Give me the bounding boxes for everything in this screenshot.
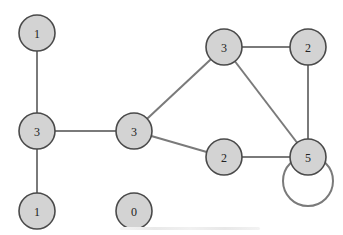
node-label: 5 <box>305 151 311 165</box>
graph-node: 1 <box>19 15 55 51</box>
graph-node: 2 <box>290 29 326 65</box>
node-label: 1 <box>34 205 40 219</box>
node-label: 3 <box>131 125 137 139</box>
node-label: 3 <box>221 41 227 55</box>
edges-layer <box>37 33 308 211</box>
node-label: 1 <box>34 27 40 41</box>
graph-node: 0 <box>116 193 152 229</box>
node-label: 0 <box>131 205 137 219</box>
graph-node: 1 <box>19 193 55 229</box>
graph-diagram: 131303225 <box>0 0 343 235</box>
graph-node: 2 <box>206 139 242 175</box>
graph-node: 3 <box>206 29 242 65</box>
figure-caption <box>120 225 260 231</box>
graph-node: 3 <box>19 113 55 149</box>
node-label: 2 <box>221 151 227 165</box>
caption-text-illegible <box>120 227 260 230</box>
graph-node: 3 <box>116 113 152 149</box>
node-label: 2 <box>305 41 311 55</box>
graph-node: 5 <box>290 139 326 175</box>
edge-n6-n9 <box>224 47 308 157</box>
node-label: 3 <box>34 125 40 139</box>
